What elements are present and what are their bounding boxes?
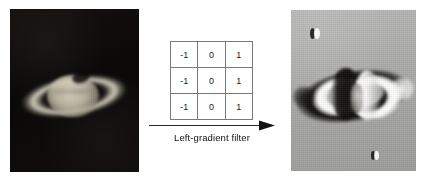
- saturn-filtered-image: [291, 10, 416, 171]
- moon-bright-edge: [374, 151, 379, 160]
- moon-lower-right: [371, 151, 379, 160]
- saturn-original-image: [10, 9, 139, 172]
- right-arrow-icon: [149, 119, 275, 132]
- transform-arrow: [149, 118, 275, 131]
- saturn-cloud-band-original: [50, 89, 96, 94]
- moon-upper-left: [310, 28, 320, 39]
- kernel-cell-2-2: 1: [225, 94, 252, 120]
- kernel-cell-2-1: 0: [198, 94, 225, 120]
- kernel-cell-0-2: 1: [225, 42, 252, 68]
- kernel-cell-1-2: 1: [225, 68, 252, 94]
- kernel-cell-2-0: -1: [171, 94, 198, 120]
- filter-demo-figure: -1 0 1 -1 0 1 -1 0 1 Left-gradient filte…: [0, 0, 423, 182]
- convolution-kernel-table: -1 0 1 -1 0 1 -1 0 1: [170, 41, 253, 120]
- kernel-cell-0-0: -1: [171, 42, 198, 68]
- kernel-cell-0-1: 0: [198, 42, 225, 68]
- kernel-row: -1 0 1: [171, 94, 253, 120]
- kernel-cell-1-1: 0: [198, 68, 225, 94]
- transform-caption-label: Left-gradient filter: [149, 132, 275, 143]
- moon-bright-edge: [314, 28, 320, 39]
- kernel-cell-1-0: -1: [171, 68, 198, 94]
- saturn-globe-center-midtone: [351, 84, 363, 112]
- kernel-row: -1 0 1: [171, 68, 253, 94]
- kernel-row: -1 0 1: [171, 42, 253, 68]
